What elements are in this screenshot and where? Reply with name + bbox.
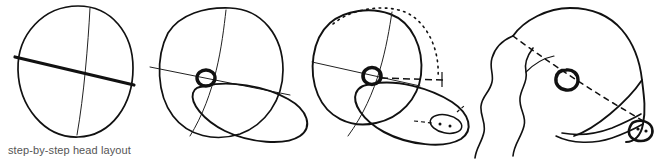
step-4-group [475, 8, 652, 158]
nostril-dot-left [439, 123, 442, 126]
nostril-dot-left [636, 127, 639, 130]
step-1-group [15, 6, 134, 137]
thin-vertical-axis [348, 12, 392, 136]
nostril-dot-right [449, 125, 452, 128]
thick-horizontal-axis [15, 57, 134, 85]
head-layout-illustration [0, 0, 660, 167]
cheek-line [526, 56, 554, 72]
step-2-group [150, 8, 307, 142]
wavy-ear-fur-inner [513, 48, 533, 156]
wavy-ear-fur-outer [475, 36, 513, 158]
figure-caption: step-by-step head layout [8, 144, 131, 156]
eye [556, 70, 578, 90]
thin-vertical-axis [190, 10, 226, 136]
step-3-group [312, 8, 469, 145]
nose-ellipse [428, 112, 463, 136]
nostril-dot-right [644, 129, 647, 132]
figure-canvas: step-by-step head layout [0, 0, 660, 167]
dashed-nose-guide [414, 121, 432, 123]
muzzle-top-outline [574, 80, 642, 136]
